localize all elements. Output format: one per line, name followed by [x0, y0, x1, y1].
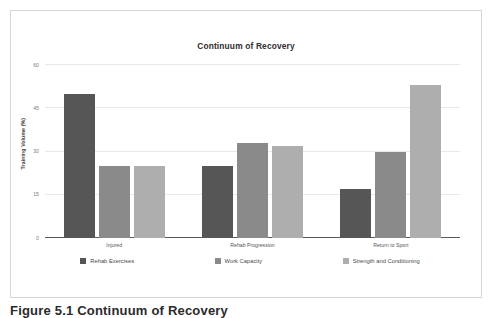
chart-title: Continuum of Recovery: [11, 41, 481, 51]
x-tick-label: Rehab Progression: [183, 242, 321, 248]
bar[interactable]: [410, 85, 441, 238]
bar[interactable]: [375, 152, 406, 239]
y-tick-label: 15: [33, 191, 39, 197]
bar-group: Injured: [45, 65, 183, 238]
bar[interactable]: [272, 146, 303, 238]
legend-swatch-icon: [343, 258, 349, 264]
bar[interactable]: [237, 143, 268, 238]
legend-item[interactable]: Rehab Exercises: [80, 258, 134, 264]
chart-legend: Rehab ExercisesWork CapacityStrength and…: [40, 258, 460, 264]
x-tick-label: Injured: [45, 242, 183, 248]
bar-group: Return to Sport: [322, 65, 460, 238]
bar[interactable]: [202, 166, 233, 238]
x-tick-label: Return to Sport: [322, 242, 460, 248]
legend-swatch-icon: [80, 258, 86, 264]
y-tick-label: 45: [33, 105, 39, 111]
legend-item[interactable]: Strength and Conditioning: [343, 258, 420, 264]
bar[interactable]: [64, 94, 95, 238]
y-tick-label: 0: [36, 235, 39, 241]
plot-area: 015304560 InjuredRehab ProgressionReturn…: [45, 65, 460, 238]
y-tick-label: 60: [33, 62, 39, 68]
bar-group: Rehab Progression: [183, 65, 321, 238]
legend-swatch-icon: [215, 258, 221, 264]
y-axis-title: Training Volume (%): [20, 118, 26, 169]
bar[interactable]: [340, 189, 371, 238]
y-tick-label: 30: [33, 148, 39, 154]
legend-label: Rehab Exercises: [90, 258, 134, 264]
figure-caption: Figure 5.1 Continuum of Recovery: [10, 303, 228, 318]
legend-item[interactable]: Work Capacity: [215, 258, 263, 264]
bar[interactable]: [99, 166, 130, 238]
legend-label: Strength and Conditioning: [353, 258, 420, 264]
bar-groups: InjuredRehab ProgressionReturn to Sport: [45, 65, 460, 238]
bar[interactable]: [134, 166, 165, 238]
legend-label: Work Capacity: [225, 258, 263, 264]
